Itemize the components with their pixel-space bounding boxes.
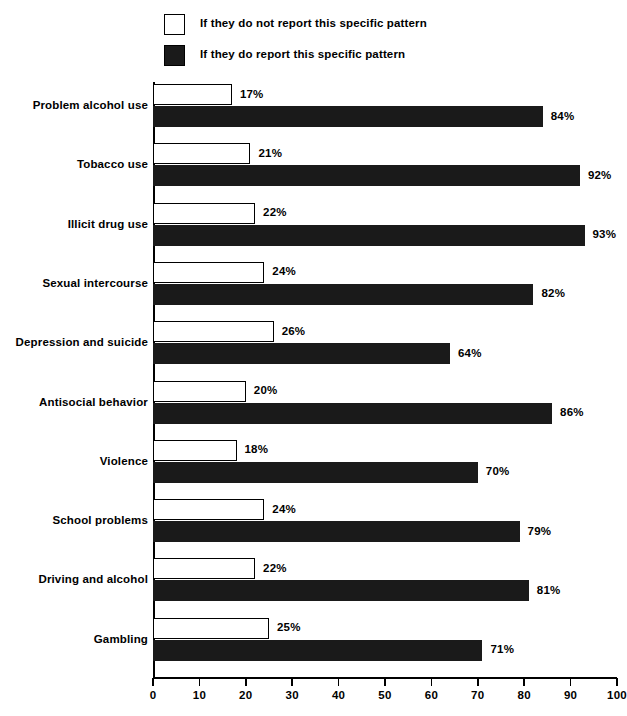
bar-value-label: 24% [272,504,296,516]
bar-row: 86% [153,403,617,424]
bar-row: 20% [153,381,617,402]
bar-value-label: 71% [490,644,514,656]
x-axis-tick [477,678,479,686]
bar-row: 22% [153,558,617,579]
bar-report [153,462,478,483]
x-axis-tick-label: 80 [517,690,530,702]
bar-not-report [153,143,250,164]
bar-row: 82% [153,284,617,305]
bar-report [153,284,533,305]
bar-value-label: 64% [458,348,482,360]
bar-row: 25% [153,618,617,639]
category-label: Illicit drug use [0,219,148,231]
bar-value-label: 17% [240,89,264,101]
x-axis-tick [570,678,572,686]
bar-value-label: 24% [272,267,296,279]
x-axis-tick-label: 30 [285,690,298,702]
bar-report [153,580,529,601]
bar-not-report [153,618,269,639]
bar-row: 81% [153,580,617,601]
bar-row: 26% [153,321,617,342]
x-axis-tick [431,678,433,686]
bar-value-label: 81% [537,585,561,597]
x-axis-tick [384,678,386,686]
category-label: School problems [0,515,148,527]
x-axis-tick-label: 90 [564,690,577,702]
bar-value-label: 79% [528,526,552,538]
x-axis-tick [245,678,247,686]
x-axis-tick [291,678,293,686]
bar-row: 92% [153,165,617,186]
bar-report [153,165,580,186]
bar-not-report [153,262,264,283]
bar-row: 64% [153,343,617,364]
category-label: Violence [0,456,148,468]
x-axis-tick-label: 10 [193,690,206,702]
bar-value-label: 84% [551,111,575,123]
bar-not-report [153,84,232,105]
category-label: Tobacco use [0,159,148,171]
bar-report [153,106,543,127]
bar-row: 21% [153,143,617,164]
bar-report [153,640,482,661]
bar-not-report [153,499,264,520]
bar-value-label: 25% [277,622,301,634]
x-axis-tick [338,678,340,686]
category-label: Problem alcohol use [0,100,148,112]
bar-not-report [153,558,255,579]
x-axis-tick-label: 20 [239,690,252,702]
bar-not-report [153,321,274,342]
category-label: Driving and alcohol [0,574,148,586]
bar-row: 18% [153,440,617,461]
x-axis-tick-label: 0 [150,690,157,702]
x-axis-tick-label: 50 [378,690,391,702]
bar-value-label: 22% [263,207,287,219]
bar-value-label: 22% [263,563,287,575]
bar-row: 17% [153,84,617,105]
bar-not-report [153,381,246,402]
bar-not-report [153,203,255,224]
category-label: Antisocial behavior [0,397,148,409]
bar-not-report [153,440,237,461]
bar-value-label: 82% [541,289,565,301]
bar-row: 93% [153,225,617,246]
bar-value-label: 92% [588,170,612,182]
category-label: Depression and suicide [0,337,148,349]
bar-row: 24% [153,499,617,520]
x-axis-tick [199,678,201,686]
x-axis-tick-label: 70 [471,690,484,702]
x-axis-tick-label: 40 [332,690,345,702]
bar-row: 24% [153,262,617,283]
bar-row: 22% [153,203,617,224]
category-label: Sexual intercourse [0,278,148,290]
bar-value-label: 20% [254,385,278,397]
bar-report [153,403,552,424]
bar-report [153,343,450,364]
x-axis-tick-label: 60 [425,690,438,702]
bar-row: 71% [153,640,617,661]
bar-row: 79% [153,521,617,542]
x-axis-tick-label: 100 [607,690,627,702]
x-axis-tick [523,678,525,686]
category-label: Gambling [0,634,148,646]
bar-value-label: 93% [593,229,617,241]
bar-row: 70% [153,462,617,483]
bar-value-label: 18% [245,445,269,457]
bar-value-label: 21% [258,148,282,160]
bar-report [153,521,520,542]
x-axis-tick [152,678,154,686]
bar-value-label: 86% [560,407,584,419]
bar-row: 84% [153,106,617,127]
bar-report [153,225,585,246]
bar-value-label: 26% [282,326,306,338]
bar-value-label: 70% [486,467,510,479]
x-axis-tick [616,678,618,686]
